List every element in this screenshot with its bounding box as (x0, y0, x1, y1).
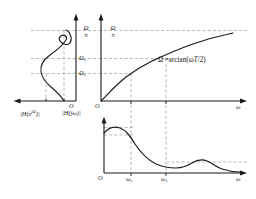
bottom-omega-axis-label: ω (236, 176, 241, 182)
analog-magnitude-axis-label: |H(jω)| (62, 110, 81, 116)
frequency-warping-figure: Ω π Ωs Ωc O |H(ejΩ)| Ω π O ω |H(jω)| Ω =… (0, 0, 256, 199)
bottom-vertical-arrow (102, 117, 107, 124)
bottom-plot-axes (102, 117, 247, 177)
center-origin-label: O (95, 103, 100, 109)
left-tick-label-omega-s: Ωs (79, 55, 85, 62)
center-vertical-arrow (99, 14, 104, 21)
center-omega-axis-label: ω (236, 104, 241, 110)
warping-equation-label: Ω =arctan(ωT/2) (158, 57, 206, 64)
bottom-tick-label-omega-s: ωs (161, 176, 167, 183)
bottom-origin-label: O (98, 175, 103, 181)
left-tick-label-omega-c: Ωc (79, 70, 86, 77)
left-magnitude-curve (41, 30, 71, 101)
projection-lines (31, 31, 247, 174)
bottom-tick-label-omega-c: ωc (126, 176, 133, 183)
digital-magnitude-axis-label: |H(ejΩ)| (20, 110, 40, 118)
bottom-horizontal-arrow (240, 171, 247, 176)
left-vertical-arrow (74, 14, 79, 21)
figure-canvas (0, 0, 256, 199)
left-omega-over-pi-tick: Ω π (79, 25, 93, 39)
arctan-warping-curve (101, 33, 233, 101)
left-horizontal-arrow (14, 99, 21, 104)
center-omega-over-pi-label: Ω π (106, 25, 120, 39)
center-horizontal-arrow (240, 99, 247, 104)
analog-magnitude-curve (104, 127, 240, 172)
